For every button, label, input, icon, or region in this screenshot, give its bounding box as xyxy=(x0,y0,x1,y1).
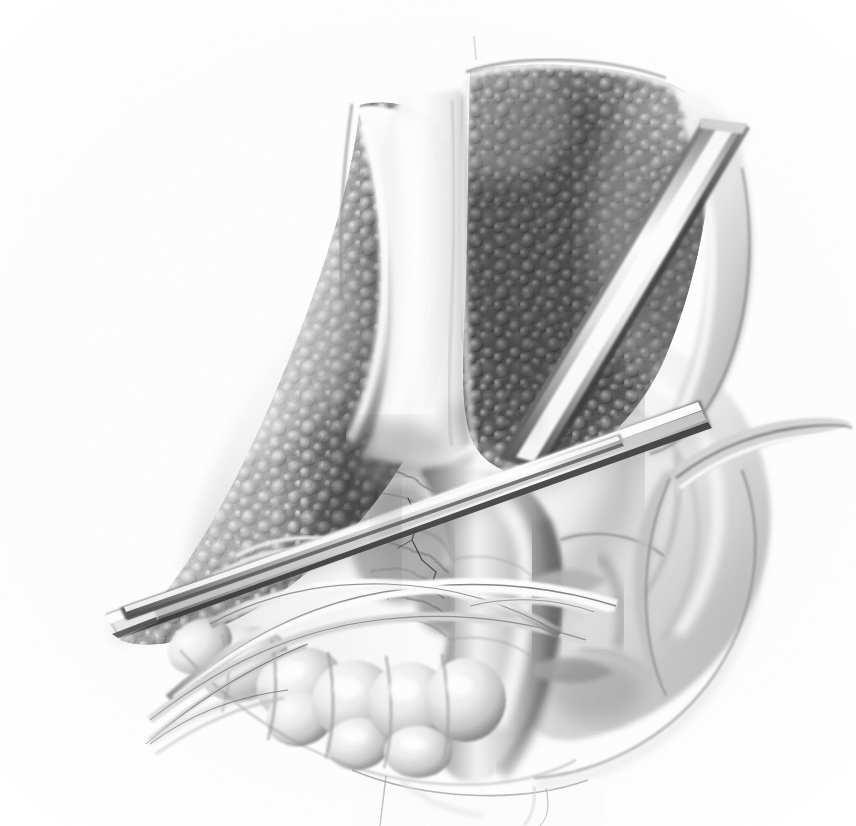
illustration-canvas: Surgical dissection field illustration g… xyxy=(0,0,856,826)
surgical-illustration-artwork xyxy=(0,0,856,826)
